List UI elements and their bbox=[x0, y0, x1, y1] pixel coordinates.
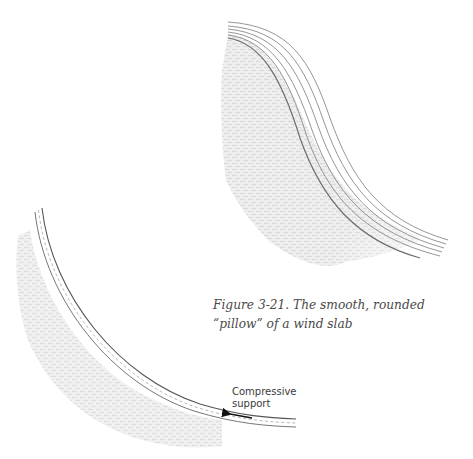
label-line-1: Compressive bbox=[232, 386, 297, 398]
label-line-2: support bbox=[232, 398, 297, 410]
figure-canvas: Compressive support Figure 3-21. The smo… bbox=[0, 0, 473, 459]
compressive-support-label: Compressive support bbox=[232, 386, 297, 410]
pillow-illustration bbox=[221, 22, 448, 266]
figure-caption: Figure 3-21. The smooth, rounded “pillow… bbox=[213, 296, 471, 334]
